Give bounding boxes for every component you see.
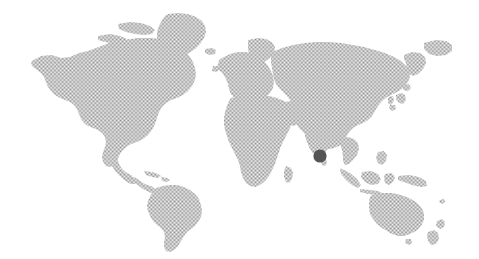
- world-map-svg: [0, 0, 479, 259]
- world-map-graphic: [0, 0, 479, 259]
- location-marker[interactable]: [313, 149, 326, 162]
- island-british-isles: [218, 61, 229, 72]
